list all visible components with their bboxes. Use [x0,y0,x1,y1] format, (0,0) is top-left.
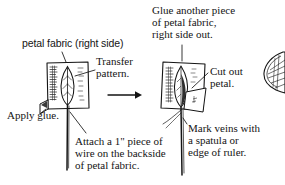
caption-petal-fabric: petal fabric (right side) [22,38,123,49]
leader-petal-fabric [62,52,66,62]
leader-mark-veins [183,118,187,124]
caption-apply-glue: Apply glue. [7,110,59,122]
leader-cut-out-petal [192,73,208,88]
caption-mark-veins: Mark veins with a spatula or edge of rul… [188,123,260,159]
caption-cut-out-petal: Cut out petal. [210,66,243,90]
step-arrow [108,91,142,98]
caption-transfer-pattern: Transfer pattern. [96,56,133,80]
petal-pattern-outline [61,67,74,106]
finished-petal-fragment [264,52,285,93]
left-fabric-texture [50,66,84,100]
leader-attach-wire [70,112,86,133]
leader-transfer-pattern [75,70,95,76]
peeled-fabric-flap [184,88,206,112]
instruction-figure: petal fabric (right side) Transfer patte… [0,0,285,185]
caption-attach-wire: Attach a 1" piece of wire on the backsid… [75,136,166,172]
right-wire [163,107,184,175]
left-fabric-panel [40,62,89,114]
left-wire [67,105,69,170]
caption-glue-another-piece: Glue another piece of petal fabric, righ… [152,5,235,41]
